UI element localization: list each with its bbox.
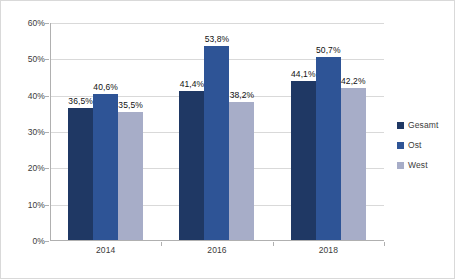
x-axis-tick-mark [273,242,274,246]
legend-item-ost[interactable]: Ost [397,137,453,153]
y-axis-tick-label: 10% [28,200,45,210]
legend-swatch-icon [397,162,404,169]
bar-value-label: 53,8% [205,34,230,44]
bar-ost-2016[interactable]: 53,8% [204,46,229,241]
bar-gesamt-2018[interactable]: 44,1% [291,81,316,241]
bar-ost-2014[interactable]: 40,6% [93,94,118,242]
bar-group: 36,5%40,6%35,5% [50,23,161,241]
bars-layer: 36,5%40,6%35,5%41,4%53,8%38,2%44,1%50,7%… [50,23,384,241]
chart-frame: 0%10%20%30%40%50%60% 36,5%40,6%35,5%41,4… [0,0,455,279]
y-axis-tick-mark [45,205,49,206]
x-axis-tick-mark [384,242,385,246]
bar-value-label: 36,5% [68,96,93,106]
y-axis-tick-label: 40% [28,91,45,101]
bar-value-label: 41,4% [180,79,205,89]
bar-group: 41,4%53,8%38,2% [161,23,272,241]
bar-value-label: 50,7% [316,45,341,55]
bar-group: 44,1%50,7%42,2% [273,23,384,241]
bar-gesamt-2014[interactable]: 36,5% [68,108,93,241]
bar-value-label: 38,2% [230,90,255,100]
y-axis-tick-mark [45,59,49,60]
legend-swatch-icon [397,142,404,149]
y-axis-tick-mark [45,241,49,242]
x-axis: 201420162018 [50,242,384,262]
y-axis-tick-mark [45,96,49,97]
bar-gesamt-2016[interactable]: 41,4% [179,91,204,241]
y-axis-tick-mark [45,23,49,24]
y-axis-line [50,23,51,241]
x-axis-tick-label: 2016 [207,245,226,255]
bar-ost-2018[interactable]: 50,7% [316,57,341,241]
y-axis-tick-label: 50% [28,54,45,64]
y-axis-tick-label: 60% [28,18,45,28]
y-axis-tick-label: 20% [28,163,45,173]
legend-item-label: West [408,160,428,170]
y-axis-tick-mark [45,132,49,133]
legend-item-gesamt[interactable]: Gesamt [397,117,453,133]
x-axis-tick-label: 2018 [319,245,338,255]
plot-area: 36,5%40,6%35,5%41,4%53,8%38,2%44,1%50,7%… [50,23,384,241]
legend-item-west[interactable]: West [397,157,453,173]
y-axis: 0%10%20%30%40%50%60% [1,23,45,241]
y-axis-tick-label: 30% [28,127,45,137]
x-axis-tick-label: 2014 [96,245,115,255]
legend-swatch-icon [397,122,404,129]
bar-west-2018[interactable]: 42,2% [341,88,366,241]
bar-value-label: 44,1% [291,69,316,79]
bar-value-label: 40,6% [93,82,118,92]
bar-west-2016[interactable]: 38,2% [229,102,254,241]
y-axis-tick-mark [45,168,49,169]
bar-west-2014[interactable]: 35,5% [118,112,143,241]
bar-value-label: 42,2% [341,76,366,86]
legend-item-label: Ost [408,140,422,150]
x-axis-tick-mark [161,242,162,246]
legend-item-label: Gesamt [408,120,438,130]
chart-legend: GesamtOstWest [397,117,453,177]
bar-value-label: 35,5% [118,100,143,110]
x-axis-line [50,240,384,241]
y-axis-tick-label: 0% [33,236,46,246]
